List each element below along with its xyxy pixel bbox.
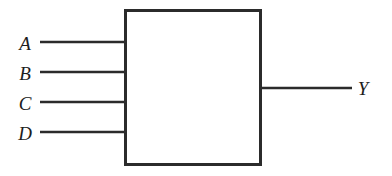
- input-label-b: B: [19, 64, 31, 83]
- schematic-figure: A B C D Y: [0, 0, 392, 176]
- input-label-c: C: [19, 94, 32, 113]
- input-label-d: D: [18, 124, 32, 143]
- schematic-svg: [0, 0, 392, 176]
- logic-block: [126, 11, 261, 165]
- output-label-y: Y: [358, 79, 369, 98]
- input-label-a: A: [19, 34, 31, 53]
